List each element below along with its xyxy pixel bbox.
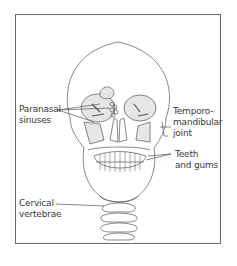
label-temporomandibular-joint: Temporo- mandibular joint	[173, 106, 222, 139]
label-cervical-vertebrae: Cervical vertebrae	[19, 198, 61, 220]
label-line: mandibular	[173, 117, 222, 128]
label-line: sinuses	[19, 115, 61, 126]
label-paranasal-sinuses: Paranasal sinuses	[19, 104, 61, 126]
maxillary-sinus	[84, 122, 104, 144]
label-line: Cervical	[19, 198, 61, 209]
label-line: Temporo-	[173, 106, 222, 117]
frontal-sinus	[100, 87, 114, 99]
cervical-vertebrae	[101, 203, 138, 240]
label-line: joint	[173, 128, 222, 139]
label-line: Teeth	[175, 149, 218, 160]
right-orbit	[124, 95, 156, 121]
label-line: vertebrae	[19, 209, 61, 220]
label-teeth-and-gums: Teeth and gums	[175, 149, 218, 171]
label-line: Paranasal	[19, 104, 61, 115]
label-line: and gums	[175, 160, 218, 171]
